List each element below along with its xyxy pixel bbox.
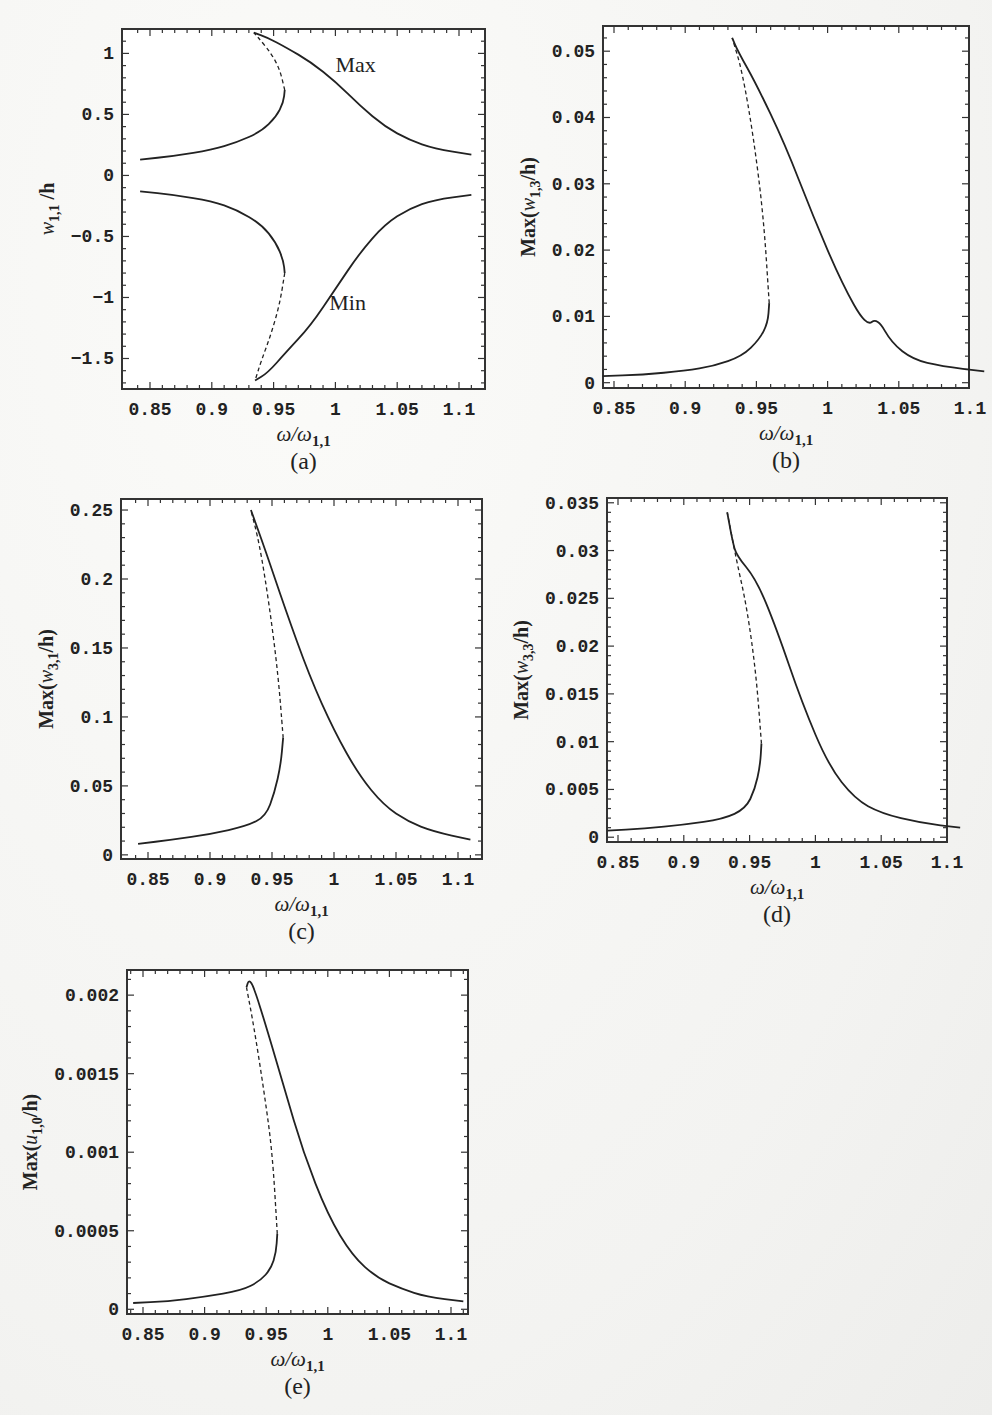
plot-frame — [607, 498, 947, 842]
x-tick-label: 1.1 — [931, 853, 964, 873]
plot-frame — [127, 970, 468, 1314]
x-tick-label: 0.85 — [126, 870, 169, 890]
y-tick-label: 0.05 — [552, 42, 595, 62]
x-tick-label: 1.1 — [442, 870, 475, 890]
y-tick-label: 0.1 — [81, 708, 114, 728]
x-tick-label: 0.9 — [669, 399, 701, 419]
chart-panel-a: 0.850.90.9511.051.110.50−0.5−1−1.5MaxMin… — [0, 0, 500, 470]
x-axis-title: ω/ω1,1 — [270, 1347, 324, 1374]
y-tick-label: 0.002 — [65, 986, 119, 1006]
y-axis-title: Max(w1,3/h) — [517, 157, 543, 257]
x-axis-title: ω/ω1,1 — [759, 421, 813, 448]
y-tick-label: 0 — [108, 1300, 119, 1320]
y-axis-title: w1,1 /h — [36, 183, 62, 236]
chart-panel-e: 0.850.90.9511.051.100.00050.0010.00150.0… — [0, 940, 500, 1415]
chart-a-svg: 0.850.90.9511.051.110.50−0.5−1−1.5MaxMin… — [0, 0, 500, 470]
y-tick-label: −0.5 — [71, 227, 114, 247]
x-tick-label: 1.05 — [860, 853, 903, 873]
x-tick-label: 0.85 — [128, 400, 171, 420]
y-tick-label: 0.04 — [552, 108, 595, 128]
x-tick-label: 1.05 — [877, 399, 920, 419]
y-tick-label: 0 — [102, 846, 113, 866]
plot-frame — [122, 29, 485, 389]
chart-e-svg: 0.850.90.9511.051.100.00050.0010.00150.0… — [0, 940, 500, 1415]
x-axis-title: ω/ω1,1 — [276, 422, 330, 449]
x-tick-label: 0.95 — [252, 400, 295, 420]
x-tick-label: 1.1 — [435, 1325, 468, 1345]
y-tick-label: 0.2 — [81, 570, 113, 590]
chart-panel-d: 0.850.90.9511.051.100.0050.010.0150.020.… — [492, 470, 992, 940]
plot-frame — [603, 26, 969, 388]
x-tick-label: 1 — [322, 1325, 333, 1345]
y-tick-label: 1 — [103, 44, 114, 64]
x-tick-label: 1 — [810, 853, 821, 873]
y-tick-label: −1 — [92, 288, 114, 308]
x-tick-label: 1 — [330, 400, 341, 420]
chart-b-svg: 0.850.90.9511.051.100.010.020.030.040.05… — [492, 0, 992, 470]
x-tick-label: 0.9 — [668, 853, 700, 873]
y-tick-label: 0 — [103, 166, 114, 186]
y-tick-label: 0.001 — [65, 1143, 119, 1163]
x-tick-label: 1 — [822, 399, 833, 419]
panel-tag: (d) — [763, 901, 791, 927]
chart-panel-c: 0.850.90.9511.051.100.050.10.150.20.25ω/… — [0, 470, 500, 940]
x-tick-label: 1.1 — [443, 400, 476, 420]
y-tick-label: 0.005 — [545, 780, 599, 800]
y-axis-title: Max(w3,1/h) — [35, 629, 61, 729]
y-tick-label: 0.015 — [545, 685, 599, 705]
chart-d-svg: 0.850.90.9511.051.100.0050.010.0150.020.… — [492, 470, 992, 940]
x-tick-label: 0.85 — [596, 853, 639, 873]
y-tick-label: 0.15 — [70, 639, 113, 659]
y-axis-title: Max(u1,0/h) — [19, 1094, 45, 1190]
y-tick-label: 0.25 — [70, 501, 113, 521]
y-tick-label: 0.035 — [545, 494, 599, 514]
x-tick-label: 1.05 — [374, 870, 417, 890]
x-tick-label: 1 — [329, 870, 340, 890]
y-tick-label: 0.0005 — [54, 1222, 119, 1242]
x-tick-label: 0.9 — [196, 400, 228, 420]
y-tick-label: 0.02 — [552, 241, 595, 261]
x-tick-label: 0.95 — [245, 1325, 288, 1345]
y-tick-label: −1.5 — [71, 349, 114, 369]
y-tick-label: 0.0015 — [54, 1065, 119, 1085]
y-tick-label: 0.03 — [552, 175, 595, 195]
x-tick-label: 0.85 — [592, 399, 635, 419]
y-tick-label: 0.01 — [556, 733, 599, 753]
y-tick-label: 0.02 — [556, 637, 599, 657]
x-axis-title: ω/ω1,1 — [750, 875, 804, 902]
y-tick-label: 0 — [588, 828, 599, 848]
x-tick-label: 0.95 — [250, 870, 293, 890]
curve-annotation: Min — [329, 290, 366, 315]
y-tick-label: 0.05 — [70, 777, 113, 797]
x-tick-label: 0.9 — [194, 870, 226, 890]
y-axis-title: Max(w3,3/h) — [510, 620, 536, 720]
y-tick-label: 0.01 — [552, 307, 595, 327]
x-tick-label: 1.05 — [368, 1325, 411, 1345]
x-tick-label: 1.1 — [954, 399, 987, 419]
x-tick-label: 0.9 — [188, 1325, 220, 1345]
chart-c-svg: 0.850.90.9511.051.100.050.10.150.20.25ω/… — [0, 470, 500, 940]
y-tick-label: 0.5 — [82, 105, 114, 125]
y-tick-label: 0.025 — [545, 589, 599, 609]
curve-annotation: Max — [335, 52, 375, 77]
x-tick-label: 0.85 — [121, 1325, 164, 1345]
y-tick-label: 0.03 — [556, 542, 599, 562]
plot-frame — [121, 499, 482, 859]
x-axis-title: ω/ω1,1 — [274, 892, 328, 919]
x-tick-label: 1.05 — [376, 400, 419, 420]
chart-panel-b: 0.850.90.9511.051.100.010.020.030.040.05… — [492, 0, 992, 470]
x-tick-label: 0.95 — [735, 399, 778, 419]
panel-tag: (e) — [284, 1373, 311, 1399]
y-tick-label: 0 — [584, 374, 595, 394]
x-tick-label: 0.95 — [728, 853, 771, 873]
